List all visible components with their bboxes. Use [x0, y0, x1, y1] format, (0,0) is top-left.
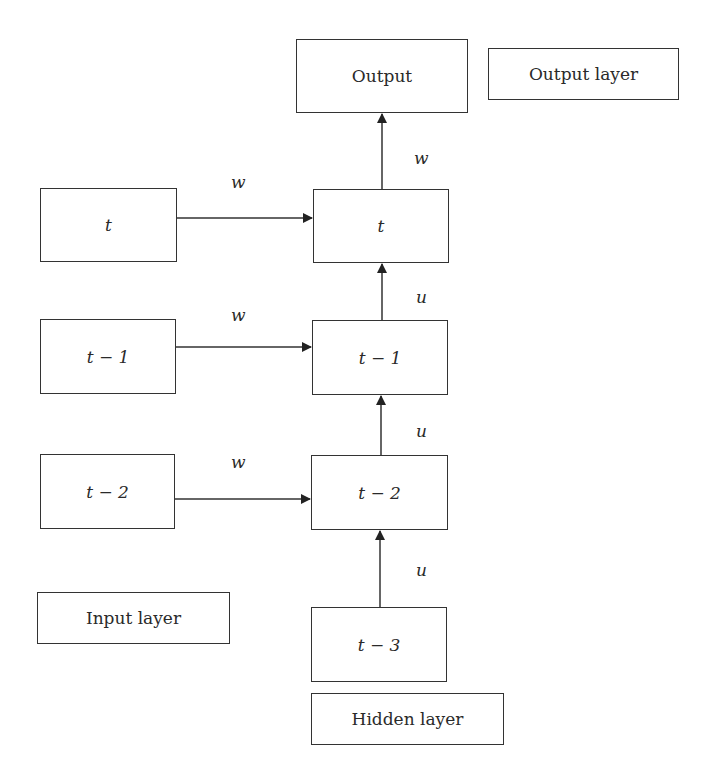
hidden-node-t-minus-1: t − 1 [312, 320, 448, 395]
weight-label-u: u [416, 560, 427, 580]
hidden-node-label: t − 2 [358, 483, 401, 503]
hidden-node-label: t − 3 [358, 635, 401, 655]
hidden-node-label: t [378, 216, 385, 236]
input-layer-label: Input layer [86, 608, 181, 628]
hidden-node-label: t − 1 [359, 348, 402, 368]
input-node-label: t [105, 215, 112, 235]
input-node-t-minus-1: t − 1 [40, 319, 176, 394]
output-node-label: Output [352, 66, 412, 86]
output-layer-label: Output layer [529, 64, 638, 84]
input-node-t-minus-2: t − 2 [40, 454, 175, 529]
hidden-layer-legend: Hidden layer [311, 693, 504, 745]
input-node-label: t − 1 [87, 347, 130, 367]
hidden-layer-label: Hidden layer [352, 709, 464, 729]
hidden-node-t-minus-3: t − 3 [311, 607, 447, 682]
weight-label-w: w [231, 452, 246, 472]
hidden-node-t: t [313, 189, 449, 263]
input-node-t: t [40, 188, 177, 262]
input-node-label: t − 2 [86, 482, 129, 502]
output-layer-legend: Output layer [488, 48, 679, 100]
hidden-node-t-minus-2: t − 2 [311, 455, 448, 530]
weight-label-u: u [416, 287, 427, 307]
input-layer-legend: Input layer [37, 592, 230, 644]
weight-label-w: w [231, 172, 246, 192]
weight-label-u: u [416, 421, 427, 441]
weight-label-w: w [414, 148, 429, 168]
output-node: Output [296, 39, 468, 113]
weight-label-w: w [231, 305, 246, 325]
